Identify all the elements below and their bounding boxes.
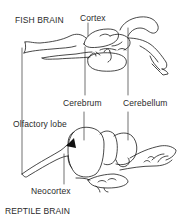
label-cerebellum: Cerebellum xyxy=(123,99,167,108)
reptile-brain-illustration xyxy=(22,127,176,192)
label-cerebrum: Cerebrum xyxy=(63,99,102,108)
reptile-brain-title: REPTILE BRAIN xyxy=(5,207,70,216)
label-olfactory-lobe: Olfactory lobe xyxy=(13,120,67,129)
brain-comparison-diagram: FISH BRAIN Cortex Cerebrum Cerebellum Ol… xyxy=(0,0,183,220)
diagram-artwork xyxy=(0,0,183,220)
neocortex-marker xyxy=(66,138,76,148)
label-cortex: Cortex xyxy=(80,14,106,23)
fish-brain-illustration xyxy=(24,17,168,75)
label-neocortex: Neocortex xyxy=(31,187,71,196)
fish-brain-title: FISH BRAIN xyxy=(15,16,64,25)
